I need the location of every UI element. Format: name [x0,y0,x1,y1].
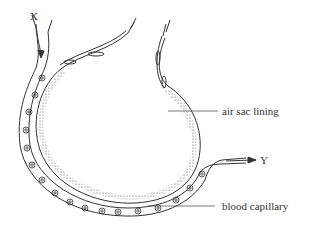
arrow-y-icon [226,157,256,163]
blood-capillary [19,15,246,216]
label-y: Y [260,154,268,166]
label-x: X [30,10,38,22]
label-blood-capillary: blood capillary [222,200,288,212]
diagram-canvas: X Y air sac lining blood capillary [0,0,318,231]
label-air-sac-lining: air sac lining [222,105,279,117]
air-sac-wall [36,18,200,203]
